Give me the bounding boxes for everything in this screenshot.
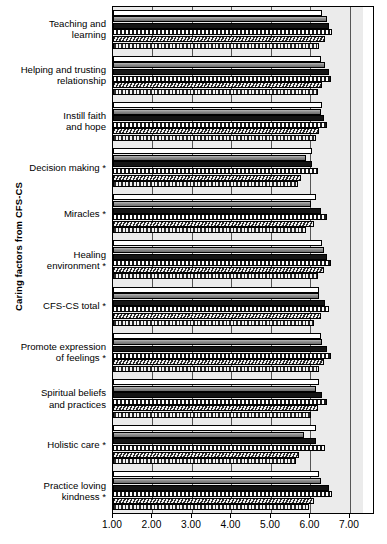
bar-series-6 (113, 181, 298, 187)
bar-series-3 (113, 485, 329, 491)
bar-series-4 (113, 306, 329, 312)
bar-series-5 (113, 267, 324, 273)
category-label: Miracles * (14, 208, 106, 219)
x-tick-label: 3.00 (171, 519, 211, 530)
bar-series-2 (113, 109, 321, 115)
bar-series-5 (113, 82, 322, 88)
category-label-column: Teaching and learningHelping and trustin… (14, 6, 106, 514)
bar-series-2 (113, 16, 327, 22)
x-tick-label: 6.00 (289, 519, 329, 530)
x-axis-tick-labels: 1.002.003.004.005.006.007.00 (0, 519, 387, 535)
bar-group (113, 6, 363, 52)
bar-series-1 (113, 240, 322, 246)
bar-series-1 (113, 10, 322, 16)
category-label: Practice loving kindness * (14, 480, 106, 503)
bar-series-6 (113, 135, 316, 141)
bar-group (113, 237, 363, 283)
bar-series-1 (113, 425, 316, 431)
bar-group (113, 468, 363, 514)
bar-series-2 (113, 201, 311, 207)
x-tick-mark (349, 514, 350, 518)
bar-series-4 (113, 399, 327, 405)
x-tick-mark (112, 514, 113, 518)
category-label: Instill faith and hope (14, 110, 106, 133)
bar-series-4 (113, 491, 332, 497)
x-tick-mark (230, 514, 231, 518)
bar-group (113, 422, 363, 468)
bar-series-5 (113, 128, 319, 134)
bar-series-5 (113, 221, 314, 227)
bar-series-1 (113, 56, 321, 62)
bar-series-3 (113, 346, 327, 352)
bar-series-4 (113, 76, 331, 82)
x-tick-mark (151, 514, 152, 518)
bar-series-2 (113, 155, 306, 161)
bar-series-3 (113, 254, 327, 260)
category-label: Spiritual beliefs and practices (14, 387, 106, 410)
bar-series-6 (113, 412, 311, 418)
bar-series-3 (113, 392, 322, 398)
bar-group (113, 98, 363, 144)
x-tick-label: 2.00 (131, 519, 171, 530)
category-label: CFS-CS total * (14, 300, 106, 311)
bar-group (113, 145, 363, 191)
x-tick-mark (191, 514, 192, 518)
x-tick-label: 1.00 (92, 519, 132, 530)
bar-series-6 (113, 227, 306, 233)
bar-series-6 (113, 366, 319, 372)
bar-series-4 (113, 122, 327, 128)
bar-series-4 (113, 168, 318, 174)
bar-series-6 (113, 89, 318, 95)
bar-series-4 (113, 214, 327, 220)
bar-series-1 (113, 333, 321, 339)
bar-series-3 (113, 208, 321, 214)
bar-group (113, 375, 363, 421)
bar-series-1 (113, 379, 319, 385)
bar-group (113, 52, 363, 98)
bar-series-5 (113, 36, 325, 42)
bar-series-3 (113, 115, 324, 121)
bar-series-2 (113, 293, 319, 299)
x-tick-mark (309, 514, 310, 518)
category-label: Healing environment * (14, 249, 106, 272)
bar-series-5 (113, 405, 318, 411)
bar-series-5 (113, 359, 324, 365)
bar-group (113, 329, 363, 375)
bar-series-5 (113, 175, 301, 181)
category-label: Decision making * (14, 162, 106, 173)
bar-series-5 (113, 498, 314, 504)
bar-series-1 (113, 471, 319, 477)
bar-series-6 (113, 320, 314, 326)
category-label: Teaching and learning (14, 18, 106, 41)
bar-series-3 (113, 300, 325, 306)
x-tick-mark (270, 514, 271, 518)
bar-series-1 (113, 148, 312, 154)
bar-series-1 (113, 194, 316, 200)
x-tick-label: 5.00 (250, 519, 290, 530)
bar-series-4 (113, 445, 325, 451)
bar-series-2 (113, 386, 316, 392)
bar-series-6 (113, 273, 318, 279)
plot-area (112, 6, 363, 514)
bar-series-3 (113, 161, 312, 167)
category-label: Promote expression of feelings * (14, 341, 106, 364)
bar-series-6 (113, 504, 309, 510)
bar-chart: Caring factors from CFS-CS Teaching and … (0, 0, 387, 544)
bar-series-3 (113, 438, 316, 444)
bar-group (113, 191, 363, 237)
bar-series-2 (113, 247, 324, 253)
bar-series-4 (113, 29, 332, 35)
bar-series-2 (113, 339, 322, 345)
bar-series-5 (113, 313, 321, 319)
bar-group (113, 283, 363, 329)
bar-series-6 (113, 458, 296, 464)
bar-series-4 (113, 260, 331, 266)
bar-series-5 (113, 452, 299, 458)
bar-series-6 (113, 43, 319, 49)
x-tick-label: 7.00 (329, 519, 369, 530)
bar-series-2 (113, 432, 304, 438)
x-tick-label: 4.00 (210, 519, 250, 530)
category-label: Helping and trusting relationship (14, 64, 106, 87)
bar-series-1 (113, 287, 319, 293)
bar-series-4 (113, 353, 331, 359)
